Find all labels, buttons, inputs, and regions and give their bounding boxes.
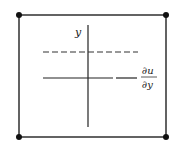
- y-axis-label: y: [74, 26, 82, 39]
- corner-node-bottom-right: [163, 134, 169, 140]
- corner-node-top-right: [163, 12, 169, 18]
- outer-boundary: [19, 15, 166, 137]
- corner-node-bottom-left: [16, 134, 22, 140]
- corner-node-top-left: [16, 12, 22, 18]
- fraction-denominator: ∂y: [142, 79, 153, 90]
- diagram-canvas: y ∂u ∂y: [0, 0, 178, 155]
- fraction-numerator: ∂u: [142, 65, 154, 76]
